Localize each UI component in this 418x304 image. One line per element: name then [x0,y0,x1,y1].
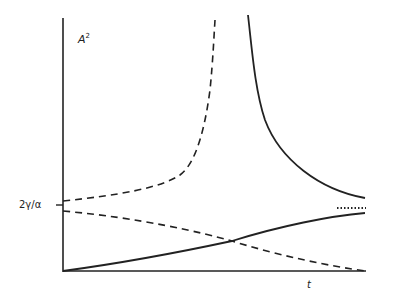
dashed-diverging-curve [63,20,215,201]
solid-decaying-curve [248,15,365,198]
y-tick-label: 2γ/α [19,199,41,210]
diagram-canvas [0,0,418,304]
y-axis-label: A2 [78,32,90,46]
solid-growing-curve [63,213,365,271]
x-axis-label: t [307,279,311,290]
